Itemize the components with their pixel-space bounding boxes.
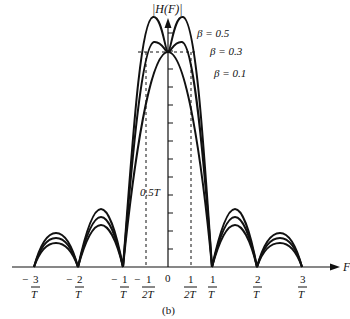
svg-text:−: −: [134, 273, 140, 285]
svg-text:1: 1: [210, 273, 216, 285]
svg-text:1: 1: [146, 273, 152, 285]
tick-neg-2T: −2T: [66, 273, 84, 300]
tick-zero: 0: [165, 272, 171, 284]
svg-text:T: T: [31, 288, 38, 300]
svg-text:2: 2: [77, 273, 83, 285]
tick-neg-3T: −3T: [22, 273, 40, 300]
y-ticks: [168, 33, 173, 249]
svg-text:3: 3: [300, 273, 306, 285]
x-axis-arrow-icon: [330, 264, 340, 271]
legend-beta-0.1: β = 0.1: [213, 67, 246, 79]
tick-2T: 2T: [253, 273, 262, 300]
figure-caption: (b): [162, 304, 175, 317]
y-axis-arrow-icon: [165, 18, 172, 28]
tick-neg-half-T: −12T: [134, 273, 155, 300]
chart-figure: |H(F)| F β = 0.5 β = 0.3 β = 0.1 0.5T −3…: [0, 0, 350, 319]
svg-text:1: 1: [122, 273, 128, 285]
svg-text:T: T: [298, 288, 305, 300]
svg-text:−: −: [22, 273, 28, 285]
svg-text:3: 3: [33, 273, 39, 285]
svg-text:2T: 2T: [184, 288, 197, 300]
tick-1T: 1T: [208, 273, 217, 300]
svg-text:1: 1: [188, 273, 194, 285]
svg-text:T: T: [75, 288, 82, 300]
svg-text:T: T: [120, 288, 127, 300]
tick-3T: 3T: [298, 273, 307, 300]
legend-beta-0.3: β = 0.3: [209, 45, 243, 57]
svg-text:T: T: [253, 288, 260, 300]
svg-text:T: T: [208, 288, 215, 300]
svg-text:−: −: [66, 273, 72, 285]
x-axis-label: F: [342, 260, 350, 274]
tick-neg-1T: −1T: [111, 273, 129, 300]
tick-half-T: 12T: [184, 273, 197, 300]
svg-text:2: 2: [255, 273, 261, 285]
svg-text:0: 0: [165, 272, 171, 284]
svg-text:2T: 2T: [142, 288, 155, 300]
x-tick-labels: −3T −2T −1T −12T 0 12T 1T 2T 3T: [22, 272, 307, 300]
y-axis-label: |H(F)|: [152, 2, 183, 16]
legend-beta-0.5: β = 0.5: [196, 27, 230, 39]
annotation-half-T: 0.5T: [140, 186, 161, 198]
svg-text:−: −: [111, 273, 117, 285]
